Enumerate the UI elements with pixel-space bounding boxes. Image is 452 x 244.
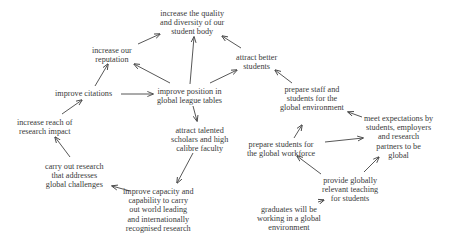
node-prepare-workforce: prepare students for the global workforc… [247,140,315,158]
arrow-teaching-to-prepare-workforce [297,156,321,174]
arrow-research-to-reach [55,137,70,157]
arrow-expectations-to-prepare-staff [348,112,362,117]
arrow-league-to-quality [190,37,194,84]
node-prepare-staff: prepare staff and students for the globa… [280,85,344,113]
node-expectations: meet expectations by students, employers… [364,114,433,160]
node-graduates: graduates will be working in a global en… [257,205,321,233]
concept-map-canvas: increase the quality and diversity of ou… [0,0,452,244]
node-research: carry out research that addresses global… [45,162,104,190]
arrow-prepare-workforce-to-expectations [325,138,363,142]
arrow-league-to-reputation [134,64,170,83]
node-talented: attract talented scholars and high calib… [171,126,228,154]
arrow-reputation-to-quality [138,34,160,44]
node-reach: increase reach of research impact [17,118,72,136]
arrow-prepare-workforce-to-prepare-staff [294,125,302,138]
arrow-reach-to-citations [62,100,82,114]
node-citations: improve citations [55,89,112,98]
arrow-league-to-better-students [210,70,237,83]
node-teaching: provide globally relevant teaching for s… [322,176,378,204]
arrow-talented-to-capacity [177,153,193,183]
node-reputation: increase our reputation [92,46,132,64]
node-league: improve position in global league tables [157,87,222,105]
arrow-citations-to-reputation [95,64,108,86]
arrow-better-students-to-quality [222,36,241,48]
arrow-league-to-talented [193,106,197,121]
node-better-students: attract better students [236,53,277,71]
node-quality: increase the quality and diversity of ou… [160,9,224,37]
node-capacity: improve capacity and capability to carry… [123,187,193,233]
arrow-prepare-staff-to-better-students [275,70,292,83]
